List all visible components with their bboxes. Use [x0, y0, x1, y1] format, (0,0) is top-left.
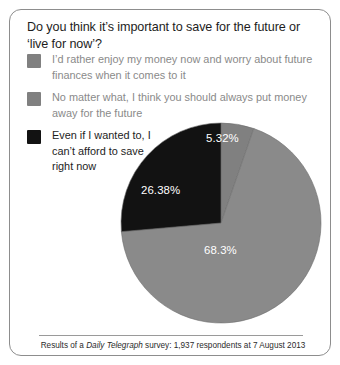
pie-slice-value-2: 26.38% [141, 184, 180, 196]
footer-publication: Daily Telegraph [86, 341, 143, 350]
legend-item-0[interactable]: I’d rather enjoy my money now and worry … [27, 52, 315, 83]
footer-suffix: survey: 1,937 respondents at 7 August 20… [143, 341, 306, 350]
legend-item-label: Even if I wanted to, I can’t afford to s… [52, 128, 164, 175]
legend-swatch-grey-light [27, 92, 41, 106]
page-title: Do you think it’s important to save for … [27, 19, 312, 52]
footer-divider [39, 335, 303, 336]
chart-card: Do you think it’s important to save for … [9, 9, 331, 356]
pie-slice-value-1: 68.3% [204, 244, 237, 256]
legend-item-2[interactable]: Even if I wanted to, I can’t afford to s… [27, 128, 315, 175]
legend-swatch-grey-dark [27, 54, 41, 68]
footer-caption: Results of a Daily Telegraph survey: 1,9… [39, 340, 307, 352]
footer-prefix: Results of a [41, 341, 87, 350]
legend-item-label: I’d rather enjoy my money now and worry … [52, 52, 314, 83]
legend-item-1[interactable]: No matter what, I think you should alway… [27, 90, 315, 121]
legend-swatch-black [27, 130, 41, 144]
legend-item-label: No matter what, I think you should alway… [52, 90, 314, 121]
